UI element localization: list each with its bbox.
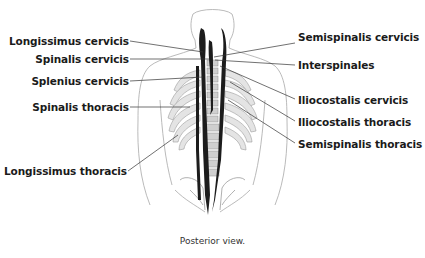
label-semispinalis-thoracis: Semispinalis thoracis — [298, 138, 422, 150]
label-spinalis-cervicis: Spinalis cervicis — [35, 53, 129, 65]
label-interspinales: Interspinales — [298, 59, 374, 71]
label-iliocostalis-thoracis: Iliocostalis thoracis — [298, 116, 411, 128]
label-semispinalis-cervicis: Semispinalis cervicis — [298, 31, 419, 43]
label-splenius-cervicis: Splenius cervicis — [31, 75, 129, 87]
pelvis — [180, 178, 245, 210]
label-spinalis-thoracis: Spinalis thoracis — [32, 101, 129, 113]
figure-caption: Posterior view. — [0, 236, 425, 246]
label-longissimus-thoracis: Longissimus thoracis — [4, 165, 127, 177]
label-longissimus-cervicis: Longissimus cervicis — [9, 35, 129, 47]
label-iliocostalis-cervicis: Iliocostalis cervicis — [298, 94, 408, 106]
